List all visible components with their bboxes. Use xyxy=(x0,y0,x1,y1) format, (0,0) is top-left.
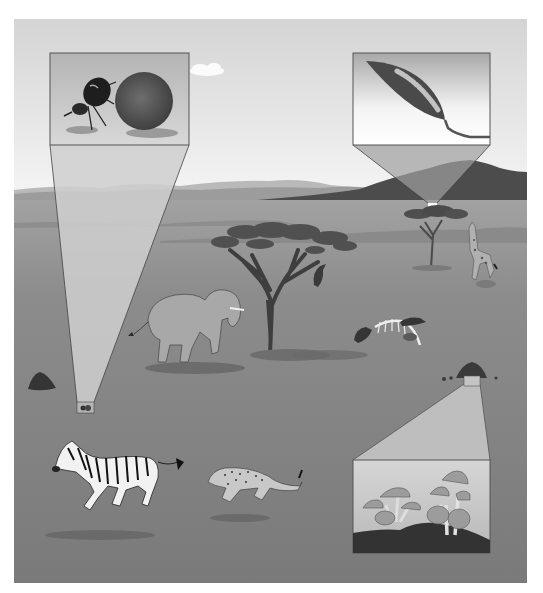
mushroom-source-box xyxy=(464,376,480,386)
mushroom-inset xyxy=(353,460,490,553)
savanna-scene xyxy=(0,0,543,593)
dung-beetle-inset xyxy=(50,53,189,145)
dung-ball xyxy=(115,72,173,130)
caterpillar-inset xyxy=(353,53,490,145)
